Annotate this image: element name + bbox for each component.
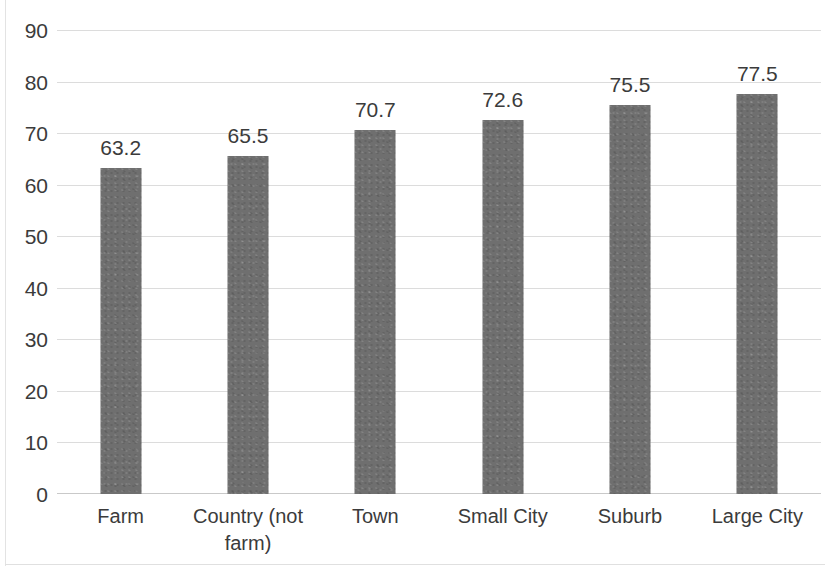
bar-value-label: 77.5 (737, 63, 778, 84)
y-axis: 0102030405060708090 (0, 30, 48, 494)
bar-value-label: 63.2 (100, 137, 141, 158)
y-axis-tick-label: 0 (0, 484, 48, 505)
y-axis-tick-label: 30 (0, 329, 48, 350)
x-axis: FarmCountry (not farm)TownSmall CitySubu… (57, 503, 821, 563)
bar (609, 105, 650, 494)
x-axis-tick-label: Small City (439, 503, 566, 530)
x-axis-tick-label: Large City (694, 503, 821, 530)
y-axis-tick-label: 80 (0, 71, 48, 92)
bar-group: 72.6 (439, 30, 566, 494)
y-axis-tick-label: 20 (0, 380, 48, 401)
x-axis-tick-label: Town (312, 503, 439, 530)
bar-group: 63.2 (57, 30, 184, 494)
y-axis-tick-label: 70 (0, 123, 48, 144)
y-axis-tick-label: 40 (0, 277, 48, 298)
y-axis-tick-label: 10 (0, 432, 48, 453)
bar-group: 65.5 (184, 30, 311, 494)
bar (737, 94, 778, 494)
bar-value-label: 65.5 (228, 125, 269, 146)
bar (355, 130, 396, 494)
x-axis-tick-label: Farm (57, 503, 184, 530)
bar-group: 75.5 (566, 30, 693, 494)
bar-value-label: 70.7 (355, 99, 396, 120)
bar-group: 70.7 (312, 30, 439, 494)
bar-value-label: 75.5 (610, 74, 651, 95)
bar (227, 156, 268, 494)
bar-group: 77.5 (694, 30, 821, 494)
bar (100, 168, 141, 494)
bar (482, 120, 523, 494)
bars-layer: 63.265.570.772.675.577.5 (57, 30, 821, 494)
y-axis-tick-label: 50 (0, 226, 48, 247)
y-axis-tick-label: 60 (0, 174, 48, 195)
y-axis-tick-label: 90 (0, 20, 48, 41)
bar-chart-figure: 0102030405060708090 63.265.570.772.675.5… (0, 0, 833, 573)
x-axis-tick-label: Country (not farm) (184, 503, 311, 557)
x-axis-tick-label: Suburb (566, 503, 693, 530)
bar-value-label: 72.6 (482, 89, 523, 110)
